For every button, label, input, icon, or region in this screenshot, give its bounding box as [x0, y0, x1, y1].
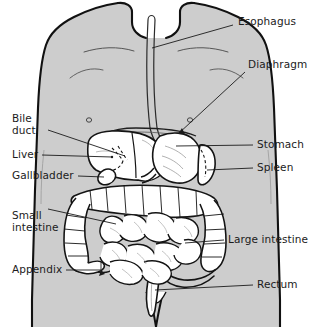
label-stomach: Stomach — [257, 139, 304, 151]
digestive-system-diagram: Esophagus Diaphragm Stomach Spleen Large… — [0, 0, 312, 327]
label-spleen: Spleen — [257, 162, 293, 174]
label-appendix: Appendix — [12, 264, 62, 276]
label-gallbladder: Gallbladder — [12, 170, 74, 182]
label-small-intestine-line2: intestine — [12, 221, 68, 233]
label-small-intestine: Small intestine — [12, 209, 68, 233]
label-bile-duct-line1: Bile — [12, 112, 58, 124]
leader-dot-liver — [111, 156, 113, 158]
label-small-intestine-line1: Small — [12, 209, 68, 221]
label-diaphragm: Diaphragm — [248, 59, 307, 71]
label-esophagus: Esophagus — [238, 16, 296, 28]
label-bile-duct: Bile duct — [12, 112, 58, 136]
label-bile-duct-line2: duct — [12, 124, 58, 136]
label-rectum: Rectum — [257, 279, 298, 291]
label-large-intestine: Large intestine — [228, 234, 308, 246]
label-liver: Liver — [12, 149, 38, 161]
